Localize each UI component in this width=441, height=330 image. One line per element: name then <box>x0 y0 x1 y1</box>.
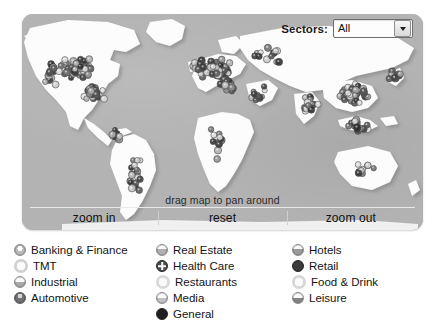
map-marker[interactable] <box>73 60 79 66</box>
map-marker-highlight <box>212 133 214 135</box>
map-marker-highlight <box>74 62 76 64</box>
legend-label: General <box>173 308 214 321</box>
map-marker-highlight <box>366 163 368 165</box>
map-marker[interactable] <box>208 127 214 133</box>
map-marker[interactable] <box>136 187 143 194</box>
legend-item[interactable]: Food & Drink <box>292 274 432 290</box>
map-marker[interactable] <box>129 172 136 179</box>
map-marker-highlight <box>111 133 113 135</box>
map-marker-highlight <box>223 83 225 85</box>
reset-button[interactable]: reset <box>158 208 286 228</box>
map-marker[interactable] <box>352 93 357 98</box>
map-marker[interactable] <box>256 53 262 59</box>
map-marker-highlight <box>399 72 401 74</box>
legend-marker-icon <box>292 292 304 304</box>
map-marker[interactable] <box>62 57 68 63</box>
map-marker-highlight <box>209 60 211 62</box>
map-marker[interactable] <box>355 162 361 168</box>
legend-item[interactable]: General <box>156 306 292 322</box>
legend-item[interactable]: Automotive <box>14 290 156 306</box>
map-marker[interactable] <box>269 53 275 59</box>
map-marker[interactable] <box>51 65 57 71</box>
map-marker[interactable] <box>357 100 362 105</box>
map-marker[interactable] <box>355 170 362 177</box>
map-marker-highlight <box>130 173 132 175</box>
legend-item[interactable]: TMT <box>14 258 156 274</box>
zoom-out-button[interactable]: zoom out <box>287 208 415 228</box>
map-marker[interactable] <box>84 96 90 102</box>
map-marker-highlight <box>390 69 392 71</box>
legend-marker-icon <box>292 260 304 272</box>
legend-item[interactable]: Restaurants <box>156 274 292 290</box>
map-marker-highlight <box>133 163 135 165</box>
legend-marker-icon <box>156 275 170 289</box>
map-marker[interactable] <box>217 134 223 140</box>
map-marker[interactable] <box>273 48 279 54</box>
map-marker[interactable] <box>315 101 321 107</box>
legend-item[interactable]: Industrial <box>14 274 156 290</box>
map-marker[interactable] <box>365 162 371 168</box>
legend-label: Health Care <box>173 260 234 273</box>
map-marker[interactable] <box>352 118 358 124</box>
map-marker-highlight <box>218 136 220 138</box>
map-controls: zoom in reset zoom out <box>30 207 415 228</box>
map-marker[interactable] <box>210 138 216 144</box>
map-marker[interactable] <box>345 90 351 96</box>
sectors-select[interactable]: All <box>333 19 413 38</box>
map-marker-highlight <box>132 159 134 161</box>
map-marker-highlight <box>52 66 54 68</box>
map-marker[interactable] <box>210 64 216 70</box>
legend-item[interactable]: Retail <box>292 258 432 274</box>
map-marker[interactable] <box>364 122 370 128</box>
map-marker-highlight <box>338 94 340 96</box>
map-marker[interactable] <box>214 70 220 76</box>
legend-item[interactable]: Real Estate <box>156 242 292 258</box>
legend-marker-icon <box>14 276 26 288</box>
legend-item[interactable]: Leisure <box>292 290 432 306</box>
legend-label: Hotels <box>309 244 342 257</box>
map-marker-highlight <box>210 128 212 130</box>
map-marker-highlight <box>137 188 139 190</box>
map-marker-highlight <box>89 67 91 69</box>
map-marker-highlight <box>304 96 306 98</box>
map-marker-highlight <box>353 120 355 122</box>
map-marker-highlight <box>355 125 357 127</box>
map-marker-highlight <box>82 95 84 97</box>
map-marker[interactable] <box>137 176 143 182</box>
map-marker-highlight <box>346 86 348 88</box>
legend-item[interactable]: Hotels <box>292 242 432 258</box>
map-marker-highlight <box>393 76 395 78</box>
map-marker[interactable] <box>305 103 311 109</box>
map-marker[interactable] <box>43 79 49 85</box>
map-marker[interactable] <box>132 162 138 168</box>
map-marker-highlight <box>198 62 200 64</box>
map-marker-highlight <box>230 86 232 88</box>
map-marker[interactable] <box>392 74 399 81</box>
map-marker[interactable] <box>211 132 217 138</box>
map-marker[interactable] <box>72 67 77 72</box>
sectors-control[interactable]: Sectors: All <box>281 19 413 38</box>
map-marker-highlight <box>266 46 268 48</box>
map-marker-highlight <box>253 92 255 94</box>
legend-column-2: Real EstateHealth CareRestaurantsMediaGe… <box>156 242 292 330</box>
map-marker-highlight <box>341 90 343 92</box>
map-marker[interactable] <box>346 123 352 129</box>
map-marker-highlight <box>388 77 390 79</box>
map-marker[interactable] <box>251 91 257 97</box>
map-marker-highlight <box>113 128 115 130</box>
chevron-down-icon[interactable] <box>394 20 411 37</box>
zoom-in-button[interactable]: zoom in <box>30 208 158 228</box>
map-marker[interactable] <box>261 84 267 90</box>
map-marker-highlight <box>89 89 91 91</box>
legend-item[interactable]: Health Care <box>156 258 292 274</box>
map-marker[interactable] <box>397 71 403 77</box>
map-panel[interactable]: Sectors: All drag map to pan around zoom… <box>22 14 423 230</box>
map-marker-highlight <box>79 58 81 60</box>
map-marker[interactable] <box>371 166 376 171</box>
legend-item[interactable]: Banking & Finance <box>14 242 156 258</box>
legend-label: Media <box>173 292 204 305</box>
map-marker-highlight <box>101 89 103 91</box>
map-marker[interactable] <box>116 133 122 139</box>
legend-item[interactable]: Media <box>156 290 292 306</box>
legend-marker-icon <box>292 244 304 256</box>
